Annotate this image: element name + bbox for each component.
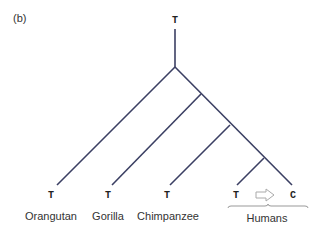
branch-chimpanzee	[170, 125, 230, 185]
branch-orangutan	[57, 67, 175, 185]
leaf-base-chimpanzee: T	[164, 190, 170, 201]
branch-gorilla	[112, 94, 201, 185]
species-orangutan: Orangutan	[25, 210, 77, 222]
leaf-base-orangutan: T	[48, 190, 54, 201]
leaf-base-human-derived: C	[290, 190, 296, 201]
mutation-arrow-icon	[256, 189, 274, 201]
root-base: T	[172, 15, 178, 26]
species-gorilla: Gorilla	[92, 210, 124, 222]
branch-main	[175, 67, 292, 185]
species-chimpanzee: Chimpanzee	[137, 210, 199, 222]
leaf-base-gorilla: T	[105, 190, 111, 201]
humans-bracket	[228, 204, 308, 208]
branch-human-t	[237, 158, 264, 185]
species-humans: Humans	[247, 212, 288, 224]
leaf-base-human-ancestral: T	[233, 190, 239, 201]
